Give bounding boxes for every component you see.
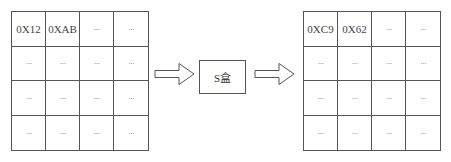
output-cell: ··· [304,116,338,151]
output-state-matrix: 0XC9 0X62 ··· ··· ··· ··· ··· ··· ··· ··… [303,11,441,151]
input-cell: ··· [12,116,46,151]
input-cell: 0XAB [46,12,80,47]
output-cell: ··· [406,81,440,116]
input-cell: ··· [12,81,46,116]
output-cell: 0X62 [338,12,372,47]
input-cell: ··· [114,116,148,151]
output-cell: ··· [372,47,406,82]
input-cell: ··· [114,47,148,82]
input-cell: ··· [46,116,80,151]
input-state-matrix: 0X12 0XAB ··· ··· ··· ··· ··· ··· ··· ··… [11,11,149,151]
input-cell: 0X12 [12,12,46,47]
input-cell: ··· [114,81,148,116]
output-cell: ··· [406,116,440,151]
output-cell: ··· [406,12,440,47]
input-cell: ··· [12,47,46,82]
output-cell: ··· [372,116,406,151]
input-cell: ··· [80,81,114,116]
output-cell: ··· [338,47,372,82]
input-cell: ··· [46,81,80,116]
s-box: S盒 [199,60,246,94]
output-cell: ··· [372,12,406,47]
output-cell: ··· [304,81,338,116]
output-cell: 0XC9 [304,12,338,47]
output-cell: ··· [338,81,372,116]
input-cell: ··· [80,12,114,47]
hollow-right-arrow-icon [254,62,295,86]
output-cell: ··· [338,116,372,151]
input-cell: ··· [80,47,114,82]
input-cell: ··· [114,12,148,47]
output-cell: ··· [372,81,406,116]
hollow-right-arrow-icon [154,62,195,86]
s-box-label: S盒 [214,69,231,85]
output-cell: ··· [406,47,440,82]
output-cell: ··· [304,47,338,82]
input-cell: ··· [46,47,80,82]
input-cell: ··· [80,116,114,151]
